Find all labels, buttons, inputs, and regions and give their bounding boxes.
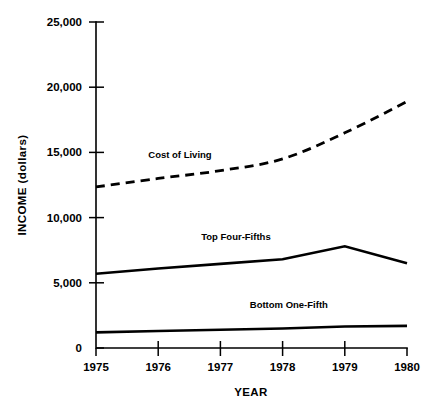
x-tick-label-1975: 1975 xyxy=(83,361,109,373)
x-tick-label-1977: 1977 xyxy=(208,361,234,373)
x-tick-label-1976: 1976 xyxy=(145,361,171,373)
y-tick-label-20000: 20,000 xyxy=(47,81,82,93)
y-tick-label-25000: 25,000 xyxy=(47,16,82,28)
annotation-bottom-one-fifth: Bottom One-Fifth xyxy=(250,299,328,310)
annotation-cost-of-living: Cost of Living xyxy=(148,149,212,160)
annotation-top-four-fifths: Top Four-Fifths xyxy=(201,231,270,242)
chart-canvas: 25,00020,00015,00010,0005,0000 197519761… xyxy=(0,0,432,410)
y-tick-label-0: 0 xyxy=(76,342,82,354)
x-tick-label-1978: 1978 xyxy=(270,361,296,373)
x-tick-label-1980: 1980 xyxy=(394,361,420,373)
y-tick-label-15000: 15,000 xyxy=(47,146,82,158)
x-axis-title: YEAR xyxy=(234,386,268,398)
x-tick-label-1979: 1979 xyxy=(332,361,358,373)
income-line-chart: 25,00020,00015,00010,0005,0000 197519761… xyxy=(0,0,432,410)
y-tick-label-10000: 10,000 xyxy=(47,212,82,224)
y-tick-label-5000: 5,000 xyxy=(53,277,82,289)
y-axis-title: INCOME (dollars) xyxy=(16,135,28,236)
